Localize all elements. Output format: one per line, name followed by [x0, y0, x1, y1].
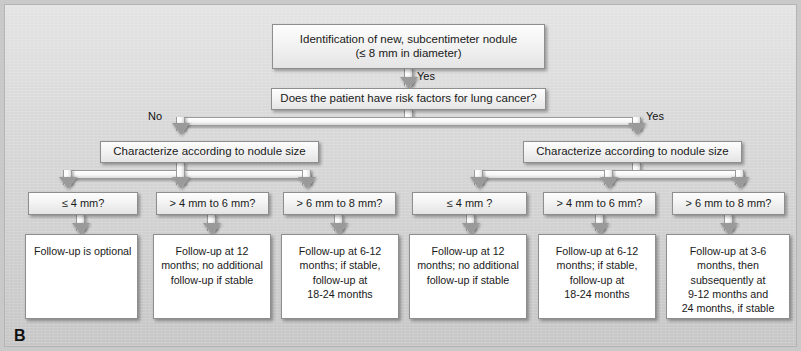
node-outcome-right-2-line2: months; if stable,	[552, 258, 643, 272]
node-root-line2: (≤ 8 mm in diameter)	[296, 47, 521, 61]
node-size-left-3-label: > 6 mm to 8 mm?	[293, 197, 387, 210]
node-outcome-right-3-line3: subsequently at	[678, 273, 779, 287]
connector-decision-bus	[176, 117, 641, 126]
node-outcome-left-2-line2: months; no additional	[157, 258, 267, 272]
node-size-right-2-label: > 4 mm to 6 mm?	[553, 197, 647, 210]
node-decision-risk-factors[interactable]: Does the patient have risk factors for l…	[271, 88, 546, 110]
node-outcome-right-1-line2: months; no additional	[413, 258, 523, 272]
arrow-left-branch-1	[60, 178, 76, 189]
edge-label-yes: Yes	[646, 110, 664, 122]
node-outcome-right-1-line3: follow-up if stable	[413, 273, 523, 287]
node-outcome-right-3-line1: Follow-up at 3-6	[678, 244, 779, 258]
node-outcome-right-2[interactable]: Follow-up at 6-12 months; if stable, fol…	[538, 234, 656, 319]
node-characterize-left[interactable]: Characterize according to nodule size	[100, 141, 319, 163]
node-outcome-left-3-line1: Follow-up at 6-12	[295, 244, 386, 258]
node-size-left-2[interactable]: > 4 mm to 6 mm?	[156, 192, 269, 215]
edge-label-no: No	[148, 110, 162, 122]
arrow-right-branch-1	[471, 178, 487, 189]
node-root-line1: Identification of new, subcentimeter nod…	[296, 33, 521, 47]
node-size-right-3-label: > 6 mm to 8 mm?	[682, 197, 776, 210]
node-outcome-right-2-line4: 18-24 months	[552, 287, 643, 301]
node-outcome-left-3[interactable]: Follow-up at 6-12 months; if stable, fol…	[281, 234, 399, 319]
node-outcome-left-2[interactable]: Follow-up at 12 months; no additional fo…	[153, 234, 271, 319]
node-size-left-1[interactable]: ≤ 4 mm?	[28, 192, 138, 215]
node-outcome-right-3[interactable]: Follow-up at 3-6 months, then subsequent…	[666, 234, 790, 319]
node-size-right-1[interactable]: ≤ 4 mm ?	[412, 192, 527, 215]
node-outcome-right-2-line3: follow-up at	[552, 273, 643, 287]
node-characterize-right-label: Characterize according to nodule size	[532, 145, 732, 159]
node-size-left-2-label: > 4 mm to 6 mm?	[166, 197, 260, 210]
arrow-right-branch-3	[732, 178, 748, 189]
node-size-right-3[interactable]: > 6 mm to 8 mm?	[672, 192, 785, 215]
arrow-right-branch-2	[601, 178, 617, 189]
edge-label-yes-root: Yes	[417, 70, 435, 82]
node-outcome-left-2-line1: Follow-up at 12	[157, 244, 267, 258]
node-outcome-right-3-line2: months, then	[678, 258, 779, 272]
node-outcome-right-2-line1: Follow-up at 6-12	[552, 244, 643, 258]
flowchart-canvas: Yes No Yes Identification of new, subcen…	[0, 0, 801, 351]
node-size-right-2[interactable]: > 4 mm to 6 mm?	[543, 192, 656, 215]
node-outcome-left-1-line1: Follow-up is optional	[26, 244, 135, 258]
node-outcome-left-3-line3: follow-up at	[295, 273, 386, 287]
node-size-left-3[interactable]: > 6 mm to 8 mm?	[283, 192, 396, 215]
arrow-left-branch-3	[299, 178, 315, 189]
node-characterize-left-label: Characterize according to nodule size	[109, 145, 309, 159]
node-outcome-right-3-line5: 24 months, if stable	[678, 301, 779, 315]
arrow-left-branch-2	[173, 178, 189, 189]
node-outcome-left-1[interactable]: Follow-up is optional	[25, 234, 138, 319]
panel-letter-label: B	[14, 327, 26, 345]
arrow-decision-yes	[629, 124, 645, 135]
node-outcome-right-1-line1: Follow-up at 12	[413, 244, 523, 258]
node-characterize-right[interactable]: Characterize according to nodule size	[523, 141, 742, 163]
node-outcome-left-3-line4: 18-24 months	[295, 287, 386, 301]
node-root[interactable]: Identification of new, subcentimeter nod…	[272, 24, 545, 69]
node-outcome-right-1[interactable]: Follow-up at 12 months; no additional fo…	[409, 234, 527, 319]
node-outcome-left-2-line3: follow-up if stable	[157, 273, 267, 287]
node-size-right-1-label: ≤ 4 mm ?	[443, 197, 497, 210]
node-outcome-left-3-line2: months; if stable,	[295, 258, 386, 272]
node-decision-label: Does the patient have risk factors for l…	[276, 92, 540, 106]
figure-panel-b: Yes No Yes Identification of new, subcen…	[0, 0, 801, 351]
arrow-decision-no	[173, 124, 189, 135]
node-size-left-1-label: ≤ 4 mm?	[58, 197, 109, 210]
node-outcome-right-3-line4: 9-12 months and	[678, 287, 779, 301]
